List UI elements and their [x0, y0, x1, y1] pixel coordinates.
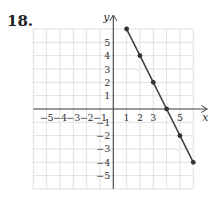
x-tick-label: 1	[124, 112, 130, 123]
x-tick-label: 3	[150, 112, 156, 123]
y-tick-label: −5	[96, 170, 110, 181]
y-tick-label: 4	[104, 50, 110, 61]
y-tick-label: 5	[104, 37, 110, 48]
x-tick-label: −4	[53, 112, 67, 123]
x-tick-label: −2	[80, 112, 94, 123]
y-tick-label: −4	[96, 157, 110, 168]
data-point-marker	[191, 160, 196, 165]
coordinate-plane-chart: xy −5−4−3−2−1123554321−1−2−3−4−5	[0, 0, 220, 200]
y-tick-label: −1	[96, 117, 110, 128]
x-tick-label: 5	[177, 112, 183, 123]
x-tick-label: 2	[137, 112, 143, 123]
y-tick-label: 2	[104, 77, 110, 88]
y-tick-label: −3	[96, 143, 110, 154]
y-tick-label: 1	[104, 90, 110, 101]
y-axis-label: y	[102, 11, 110, 24]
x-tick-label: −5	[40, 112, 54, 123]
data-point-marker	[164, 107, 169, 112]
x-tick-label: −3	[66, 112, 80, 123]
y-tick-label: 3	[104, 64, 110, 75]
x-axis-label: x	[202, 111, 209, 124]
data-point-marker	[124, 27, 129, 32]
data-point-marker	[178, 133, 183, 138]
y-tick-label: −2	[96, 130, 110, 141]
data-point-marker	[138, 53, 143, 58]
data-point-marker	[151, 80, 156, 85]
